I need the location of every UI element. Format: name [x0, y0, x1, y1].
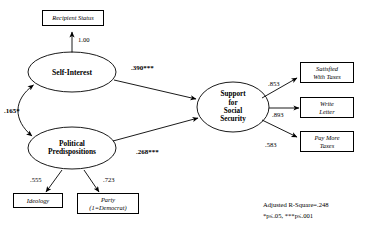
path-self-interest-predispositions-correlation [18, 85, 34, 136]
model-adjusted-r-square: Adjusted R-Square=.248 [263, 200, 329, 210]
node-label-support-social-security: Support for Social Security [199, 87, 267, 127]
path-support-to-pay-more-taxes [262, 120, 297, 137]
coefficient-predispositions-to-support: .268*** [136, 148, 159, 156]
coefficient-support-to-satisfied-with-taxes: .853 [268, 80, 280, 87]
box-recipient-status: Recipient Status [42, 10, 104, 26]
path-predispositions-to-support [113, 118, 198, 141]
node-label-political-predispositions: Political Predispositions [28, 137, 116, 159]
box-write-letter: Write Letter [300, 97, 354, 118]
coefficient-predispositions-to-party: .723 [103, 176, 115, 183]
box-ideology: Ideology [13, 193, 63, 208]
path-predispositions-to-ideology [46, 170, 62, 192]
coefficient-self-interest-to-recipient-status: 1.00 [78, 36, 90, 43]
box-satisfied-with-taxes: Satisfied With Taxes [300, 62, 354, 83]
coefficient-support-to-write-letter: .893 [272, 111, 284, 118]
path-predispositions-to-party [84, 170, 99, 192]
significance-legend: *p≤.05, ***p≤.001 [263, 211, 313, 221]
node-label-self-interest: Self-Interest [28, 62, 116, 82]
coefficient-support-to-pay-more-taxes: .583 [265, 141, 277, 148]
box-pay-more-taxes: Pay More Taxes [300, 131, 354, 152]
coefficient-self-interest-to-support: .390*** [131, 64, 154, 72]
path-diagram-canvas: Self-Interest Political Predispositions … [0, 0, 372, 237]
coefficient-self-interest-predispositions-correlation: .165* [4, 107, 20, 115]
path-self-interest-to-support [114, 80, 196, 99]
box-party: Party (1=Democrat) [77, 193, 139, 214]
coefficient-predispositions-to-ideology: .555 [30, 176, 42, 183]
